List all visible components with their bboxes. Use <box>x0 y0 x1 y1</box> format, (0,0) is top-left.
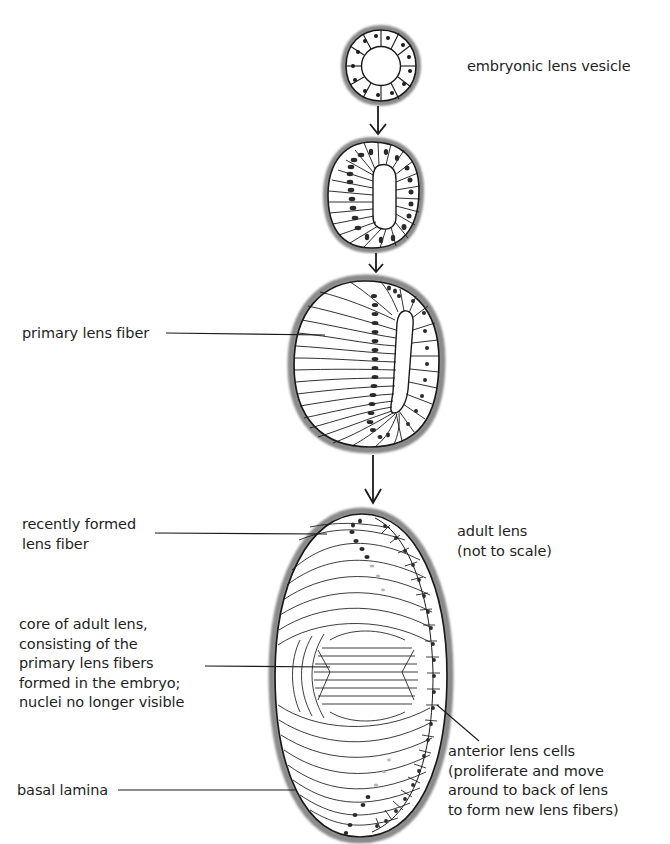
label-adult-lens: adult lens (not to scale) <box>457 522 552 561</box>
label-primary-lens-fiber: primary lens fiber <box>22 324 149 344</box>
label-core-of-adult-lens: core of adult lens, consisting of the pr… <box>19 615 184 713</box>
leader-recent-fiber <box>155 533 327 534</box>
label-embryonic-lens-vesicle: embryonic lens vesicle <box>467 57 631 77</box>
stage-4-adult-lens <box>272 511 450 840</box>
stage-2-lens-vesicle-elongating <box>326 140 421 250</box>
arrow-2-icon <box>369 253 383 272</box>
arrow-3-icon <box>365 455 381 503</box>
stage-1-lens-vesicle <box>344 28 418 103</box>
stage-3-primary-lens-fiber-formation <box>291 278 442 450</box>
arrow-1-icon <box>370 106 386 134</box>
lens-development-diagram <box>0 0 670 844</box>
label-anterior-lens-cells: anterior lens cells (proliferate and mov… <box>448 742 619 820</box>
label-recently-formed-lens-fiber: recently formed lens fiber <box>22 515 136 554</box>
label-basal-lamina: basal lamina <box>17 781 108 801</box>
